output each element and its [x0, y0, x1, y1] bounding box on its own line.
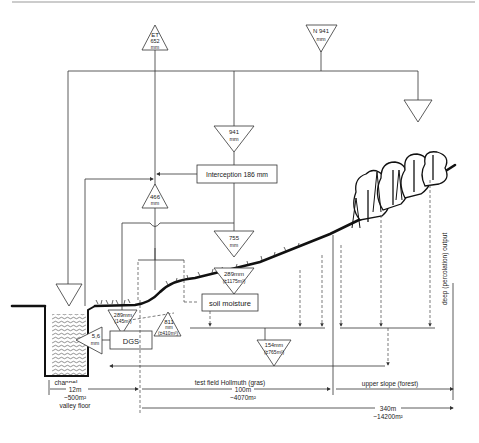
gross-rain-value: 941: [229, 129, 240, 135]
test-field-name: test field Hollmuth (gras): [195, 379, 265, 387]
dgs-label: DGS: [123, 337, 139, 346]
net-rain-755-triangle: 755 mm: [214, 231, 254, 257]
upper-slope-label: upper slope (forest): [362, 380, 418, 388]
deep-154-value: 154mm: [265, 342, 284, 348]
deep-154-sub: (±765m³): [264, 349, 285, 355]
test-field-area: ~4070m²: [230, 394, 257, 401]
test-field-length: 100m: [235, 386, 251, 393]
total-area: ~14200m²: [373, 413, 403, 420]
channel: channel: [12, 284, 95, 386]
total-length: 340m: [380, 405, 396, 412]
interception-box: Interception 186 mm: [197, 165, 277, 183]
valley-289-sub: (145m³): [114, 318, 132, 324]
evap-466-unit: mm: [151, 200, 159, 206]
dgs-box: DGS: [110, 331, 152, 349]
valley-289-triangle: 289mm (145m³): [108, 310, 137, 334]
soil-moisture-box: soil moisture: [202, 294, 258, 311]
net-rain-value: 755: [229, 235, 240, 241]
et-unit: mm: [151, 44, 159, 50]
precipitation-triangle: N 941 mm: [306, 25, 337, 52]
evaporation-466-triangle: 466 mm: [142, 184, 168, 208]
infiltration-sub: (±1175m³): [223, 278, 246, 284]
valley-length: 12m: [69, 386, 82, 393]
forest-trees-icon: [352, 152, 447, 228]
deep-154-triangle: 154mm (±765m³): [257, 340, 291, 366]
infiltration-value: 289mm: [224, 271, 244, 277]
interception-label: Interception 186 mm: [206, 171, 268, 179]
water-balance-diagram: ET 652 mm N 941 mm 941 mm Interception 1…: [0, 0, 479, 443]
forest-rain-triangle: [404, 100, 432, 122]
gross-rain-triangle: 941 mm: [214, 126, 254, 152]
outflow-value: 5,6: [92, 333, 101, 339]
gross-rain-unit: mm: [229, 136, 239, 142]
precip-unit: mm: [316, 36, 326, 42]
precip-label: N 941: [313, 28, 330, 34]
deep-output-label: deep (percolation) output: [441, 233, 449, 305]
valley-name: valley floor: [59, 402, 91, 410]
soil-moisture-label: soil moisture: [209, 299, 251, 308]
outflow-unit: mm: [91, 340, 99, 346]
lateral-811-sub: (±410m³): [158, 330, 179, 336]
valley-area: ~500m²: [64, 394, 87, 401]
evapotranspiration-triangle: ET 652 mm: [142, 25, 168, 50]
net-rain-unit: mm: [230, 242, 238, 248]
